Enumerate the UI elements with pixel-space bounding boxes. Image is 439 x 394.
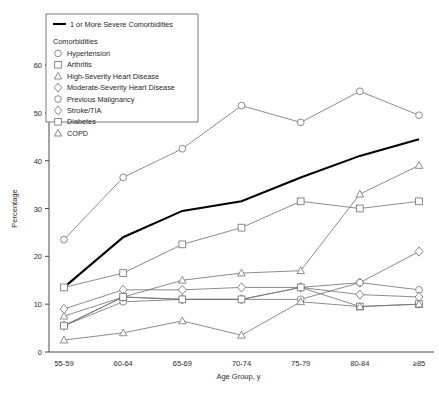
marker-circle-legend — [55, 96, 62, 103]
x-axis-title: Age Group, y — [216, 372, 260, 381]
marker-diamond — [60, 304, 68, 313]
x-tick-label: 80-84 — [350, 359, 369, 368]
series-1-or-more-severe-comorbidities — [64, 139, 419, 287]
x-tick-label: 75-79 — [291, 359, 310, 368]
x-tick-label: 70-74 — [232, 359, 251, 368]
line-chart: 0102030405060Percentage55-5960-6465-6970… — [0, 0, 439, 394]
marker-square — [61, 284, 68, 291]
marker-circle — [416, 112, 423, 119]
x-tick-label: ≥85 — [413, 359, 425, 368]
marker-circle — [356, 88, 363, 95]
chart-container: 0102030405060Percentage55-5960-6465-6970… — [0, 0, 439, 394]
marker-square — [120, 270, 127, 277]
y-tick-label: 60 — [34, 61, 42, 70]
marker-square — [356, 205, 363, 212]
marker-square — [238, 296, 245, 303]
marker-circle — [61, 236, 68, 243]
y-axis-title: Percentage — [10, 189, 19, 227]
x-tick-label: 55-59 — [54, 359, 73, 368]
y-tick-label: 30 — [34, 205, 42, 214]
legend-label-diabetes: Diabetes — [67, 117, 96, 126]
x-tick-label: 65-69 — [173, 359, 192, 368]
marker-circle — [297, 119, 304, 126]
marker-circle — [120, 174, 127, 181]
marker-square — [120, 294, 127, 301]
legend-label-arthritis: Arthritis — [67, 60, 92, 69]
marker-square — [297, 284, 304, 291]
legend-label-previous-malignancy: Previous Malignancy — [67, 95, 135, 104]
marker-diamond — [178, 285, 186, 294]
series-copd — [60, 298, 422, 343]
marker-triangle — [356, 190, 363, 197]
marker-square — [179, 296, 186, 303]
marker-square — [297, 198, 304, 205]
legend-label-stroke-tia: Stroke/TIA — [67, 106, 102, 115]
y-tick-label: 20 — [34, 252, 42, 261]
marker-square — [61, 322, 68, 329]
marker-diamond — [356, 290, 364, 299]
y-tick-label: 10 — [34, 300, 42, 309]
marker-circle-legend — [55, 50, 62, 57]
plot-area — [60, 88, 423, 343]
legend-label-severe-comorbidities: 1 or More Severe Comorbidities — [70, 20, 173, 29]
marker-diamond — [238, 283, 246, 292]
marker-diamond — [415, 247, 423, 256]
legend-label-moderate-severity-heart-disease: Moderate-Severity Heart Disease — [67, 83, 175, 92]
marker-square — [238, 224, 245, 231]
marker-square-legend — [55, 119, 62, 126]
y-tick-label: 0 — [38, 348, 42, 357]
marker-square — [416, 198, 423, 205]
marker-circle — [356, 279, 363, 286]
legend-label-high-severity-heart-disease: High-Severity Heart Disease — [67, 72, 159, 81]
legend: 1 or More Severe ComorbiditiesComorbidit… — [46, 14, 198, 138]
legend-label-hypertension: Hypertension — [67, 49, 110, 58]
marker-circle — [179, 145, 186, 152]
marker-triangle — [179, 317, 186, 324]
x-tick-label: 60-64 — [114, 359, 133, 368]
marker-circle — [238, 102, 245, 109]
marker-triangle — [415, 162, 422, 169]
series-line — [64, 139, 419, 287]
marker-square — [179, 241, 186, 248]
series-line — [64, 165, 419, 316]
marker-square-legend — [55, 62, 62, 69]
marker-triangle — [238, 269, 245, 276]
legend-title: Comorbidities — [53, 37, 98, 46]
x-axis-ticks: 55-5960-6465-6970-7475-7980-84≥85 — [54, 359, 425, 368]
y-tick-label: 40 — [34, 157, 42, 166]
marker-triangle-legend — [54, 129, 61, 136]
legend-label-copd: COPD — [67, 129, 88, 138]
y-tick-label: 50 — [34, 109, 42, 118]
